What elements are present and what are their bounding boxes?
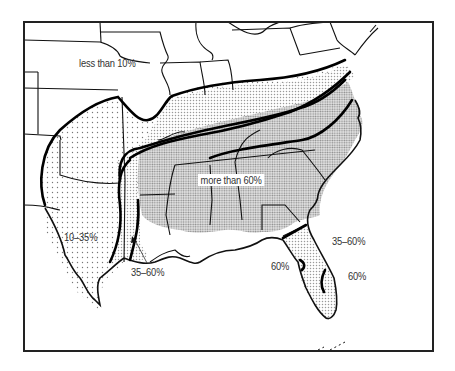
label-35-60-atlantic: 35–60% — [332, 235, 365, 247]
label-60-west-florida: 60% — [271, 260, 289, 272]
label-less-than-10: less than 10% — [79, 57, 136, 69]
label-more-than-60: more than 60% — [198, 174, 264, 186]
label-10-35: 10–35% — [64, 231, 97, 243]
zone-florida — [283, 225, 337, 320]
label-60-east-florida: 60% — [348, 270, 366, 282]
label-35-60-gulf: 35–60% — [131, 266, 164, 278]
